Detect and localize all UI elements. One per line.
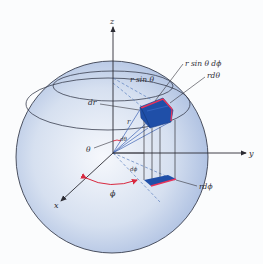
z-axis-label: z	[109, 17, 115, 26]
sphere	[16, 61, 208, 253]
x-axis-label: x	[54, 201, 59, 210]
label-r-dphi: rdϕ	[199, 182, 213, 191]
label-theta: θ	[86, 145, 91, 154]
label-r-sin-theta: r sin θ	[130, 75, 154, 84]
spherical-coordinates-diagram: z y x r sin θ dϕ r sin θ rdθ dr r θ dθ d…	[0, 0, 263, 264]
label-r-sin-theta-dphi: r sin θ dϕ	[185, 59, 221, 68]
diagram-canvas: z y x r sin θ dϕ r sin θ rdθ dr r θ dθ d…	[0, 0, 263, 264]
label-dtheta: dθ	[120, 136, 128, 142]
label-dr: dr	[88, 98, 97, 107]
label-phi: ϕ	[110, 189, 116, 198]
label-dphi: dϕ	[130, 166, 138, 173]
y-axis-label: y	[248, 149, 254, 158]
label-r-dtheta: rdθ	[207, 71, 220, 80]
